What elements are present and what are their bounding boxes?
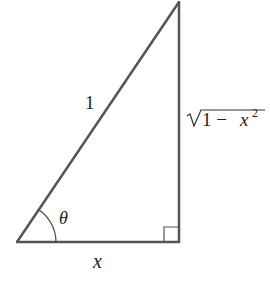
opposite-label: 1 − x 2 xyxy=(187,106,265,130)
opposite-label-var: x xyxy=(239,109,249,130)
adjacent-label: x xyxy=(92,250,102,272)
hypotenuse-side xyxy=(17,2,179,242)
hypotenuse-label: 1 xyxy=(85,92,95,113)
opposite-label-exp: 2 xyxy=(252,106,258,120)
angle-arc xyxy=(39,210,56,242)
right-triangle-diagram: 1 θ x 1 − x 2 xyxy=(0,0,270,288)
right-angle-marker xyxy=(164,227,179,242)
opposite-label-prefix: 1 − xyxy=(202,109,227,130)
angle-label: θ xyxy=(59,208,68,228)
